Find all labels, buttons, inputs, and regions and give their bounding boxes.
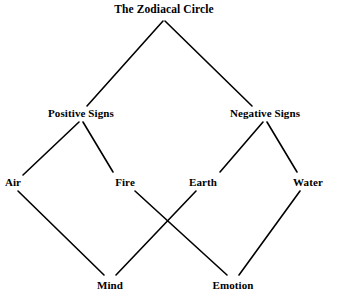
edge-positive-fire: [83, 122, 113, 172]
node-air: Air: [3, 176, 23, 188]
edge-negative-earth: [220, 122, 263, 172]
edge-air-mind: [18, 191, 104, 275]
node-positive-signs: Positive Signs: [46, 107, 116, 119]
zodiacal-circle-diagram: The Zodiacal Circle Positive Signs Negat…: [0, 0, 337, 299]
diagram-edge-layer: [0, 0, 337, 299]
edge-earth-mind: [116, 191, 196, 275]
edge-negative-water: [267, 122, 297, 172]
node-fire: Fire: [113, 176, 137, 188]
node-mind: Mind: [95, 279, 125, 291]
edge-zodiacal-positive: [87, 21, 163, 106]
node-emotion: Emotion: [210, 279, 255, 291]
edge-fire-emotion: [135, 191, 227, 275]
node-negative-signs: Negative Signs: [228, 107, 302, 119]
node-water: Water: [291, 176, 325, 188]
edge-zodiacal-negative: [165, 21, 252, 106]
edge-water-emotion: [239, 191, 300, 275]
node-zodiacal-circle: The Zodiacal Circle: [112, 3, 215, 15]
node-earth: Earth: [187, 176, 219, 188]
edge-positive-air: [23, 122, 79, 175]
